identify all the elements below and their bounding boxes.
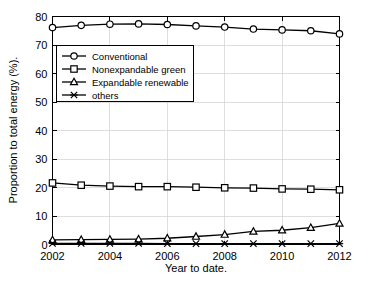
- x-tick-label: 2002: [40, 250, 64, 262]
- x-axis-title: Year to date.: [165, 262, 227, 274]
- series-others: [49, 240, 343, 247]
- chart-figure: 01020304050607080 2002200420062008201020…: [0, 0, 368, 281]
- x-axis-tick-labels: 200220042006200820102012: [40, 250, 351, 262]
- circle-marker: [279, 27, 285, 33]
- chart-legend: ConventionalNonexpandable greenExpandabl…: [57, 46, 194, 102]
- x-marker: [307, 240, 314, 246]
- triangle-marker: [336, 220, 343, 226]
- x-tick-label: 2004: [98, 250, 122, 262]
- circle-marker: [78, 22, 84, 28]
- y-tick-label: 80: [35, 11, 47, 23]
- circle-marker: [336, 31, 342, 37]
- circle-marker: [164, 21, 170, 27]
- circle-marker: [107, 21, 113, 27]
- circle-marker: [250, 26, 256, 32]
- legend-item-label: others: [92, 90, 119, 101]
- series-expandable-renewable: [49, 220, 343, 243]
- line-chart: 01020304050607080 2002200420062008201020…: [0, 0, 368, 281]
- x-marker: [250, 240, 257, 246]
- x-marker: [192, 240, 199, 246]
- circle-marker: [49, 24, 55, 30]
- circle-marker: [135, 21, 141, 27]
- square-marker: [336, 187, 342, 193]
- y-tick-label: 60: [35, 68, 47, 80]
- x-tick-label: 2010: [270, 250, 294, 262]
- circle-marker: [193, 23, 199, 29]
- circle-marker: [308, 28, 314, 34]
- legend-item-label: Conventional: [92, 51, 147, 62]
- square-marker: [107, 183, 113, 189]
- square-marker: [164, 183, 170, 189]
- y-tick-label: 10: [35, 210, 47, 222]
- x-tick-label: 2012: [327, 250, 351, 262]
- square-marker: [222, 185, 228, 191]
- series-nonexpandable-green: [49, 180, 342, 193]
- y-tick-label: 30: [35, 153, 47, 165]
- y-tick-label: 40: [35, 125, 47, 137]
- square-marker: [193, 184, 199, 190]
- legend-item-label: Nonexpandable green: [92, 64, 186, 75]
- y-axis-tick-labels: 01020304050607080: [35, 11, 47, 251]
- square-marker: [135, 183, 141, 189]
- square-marker: [308, 186, 314, 192]
- series-conventional: [49, 21, 342, 37]
- square-marker: [71, 66, 77, 72]
- y-tick-label: 20: [35, 182, 47, 194]
- square-marker: [78, 182, 84, 188]
- circle-marker: [71, 53, 77, 59]
- square-marker: [250, 185, 256, 191]
- legend-item-label: Expandable renewable: [92, 77, 189, 88]
- x-tick-label: 2006: [155, 250, 179, 262]
- square-marker: [279, 186, 285, 192]
- y-tick-label: 50: [35, 96, 47, 108]
- circle-marker: [222, 24, 228, 30]
- y-tick-label: 70: [35, 39, 47, 51]
- x-tick-label: 2008: [212, 250, 236, 262]
- y-axis-title: Proportion to total energy (%).: [7, 57, 19, 204]
- square-marker: [49, 180, 55, 186]
